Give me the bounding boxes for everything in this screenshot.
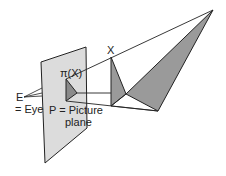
label-picture-plane-1: P = Picture (49, 104, 103, 116)
eye-ray-1 (24, 88, 42, 97)
label-picture-plane-2: plane (65, 116, 92, 128)
label-object-point: X (107, 44, 115, 56)
perspective-diagram: E = Eye P = Picture plane π(X) X (0, 0, 226, 176)
label-eye-letter: E (16, 91, 23, 103)
label-eye-desc: = Eye (15, 103, 43, 115)
object-large-triangle (126, 10, 213, 111)
object-small-triangle (111, 57, 126, 106)
label-projected-point: π(X) (60, 67, 82, 79)
